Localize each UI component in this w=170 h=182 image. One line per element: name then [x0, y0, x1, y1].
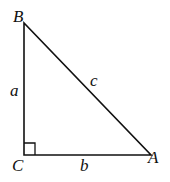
- side-label-a: a: [10, 81, 19, 100]
- right-angle-marker: [24, 143, 35, 155]
- vertex-label-b: B: [13, 7, 24, 26]
- triangle-shape: [24, 23, 151, 155]
- side-label-c: c: [90, 71, 98, 90]
- right-triangle-diagram: B C A a b c: [0, 0, 170, 182]
- vertex-label-a: A: [147, 148, 159, 167]
- side-label-b: b: [80, 156, 89, 175]
- vertex-label-c: C: [12, 156, 24, 175]
